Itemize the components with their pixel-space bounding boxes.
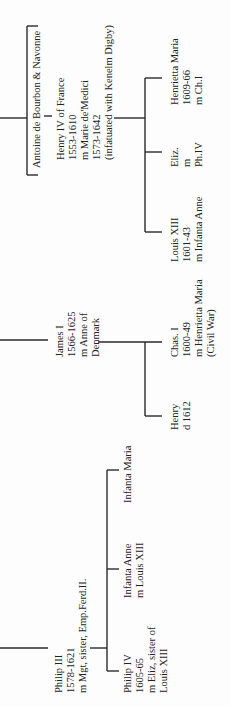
infanta-maria-name: Infanta Maria: [122, 446, 134, 503]
chas-i-dates: 1600-49: [181, 279, 193, 357]
node-infanta-maria: Infanta Maria: [122, 446, 134, 503]
henrietta-maria-spouse: m Ch.I: [193, 38, 205, 105]
node-henry-iv: Henry IV of France 1553-1610 m Marie de'…: [55, 25, 115, 160]
philip-iv-spouse: m Eliz, sister of: [146, 627, 158, 694]
henry-iv-spouse: m Marie de'Medici: [79, 25, 91, 160]
node-antoine-line-0: Antoine de Bourbon & Navonne: [31, 31, 43, 168]
henry-iv-note: (infatuated with Kenelm Digby): [103, 25, 115, 160]
node-louis-xiii: Louis XIII 1601-43 m Infanta Anne: [169, 197, 205, 262]
henry-iv-name: Henry IV of France: [55, 25, 67, 160]
james-i-spouse-cont: Denmark: [90, 312, 102, 358]
chas-i-spouse: m Henrietta Maria: [193, 279, 205, 357]
henrietta-maria-dates: 1609-66: [181, 38, 193, 105]
philip-iv-spouse-cont: Louis XIII: [158, 627, 170, 694]
node-philip-iv: Philip IV 1605-65 m Eliz, sister of Loui…: [122, 627, 170, 694]
louis-xiii-spouse: m Infanta Anne: [193, 197, 205, 262]
philip-iii-spouse: m Mgt, sister, Emp.Ferd.II.: [77, 579, 89, 694]
james-i-spouse: m Anne of: [78, 312, 90, 358]
philip-iv-name: Philip IV: [122, 627, 134, 694]
infanta-anne-name: Infanta Anne: [122, 543, 134, 598]
james-i-name: James I: [54, 312, 66, 358]
henry-death: d 1612: [181, 401, 193, 430]
node-eliz: Eliz. m Ph.IV: [169, 142, 205, 167]
node-henry: Henry d 1612: [169, 401, 193, 430]
louis-xiii-name: Louis XIII: [169, 197, 181, 262]
henry-iv-dates: 1553-1610: [67, 25, 79, 160]
infanta-anne-spouse: m Louis XIII: [134, 543, 146, 598]
henrietta-maria-name: Henrietta Maria: [169, 38, 181, 105]
philip-iii-name: Philip III: [53, 579, 65, 694]
node-henrietta-maria: Henrietta Maria 1609-66 m Ch.I: [169, 38, 205, 105]
eliz-spouse: Ph.IV: [193, 142, 205, 167]
philip-iii-dates: 1578-1621: [65, 579, 77, 694]
node-philip-iii: Philip III 1578-1621 m Mgt, sister, Emp.…: [53, 579, 89, 694]
node-antoine: Antoine de Bourbon & Navonne: [31, 31, 43, 168]
node-infanta-anne: Infanta Anne m Louis XIII: [122, 543, 146, 598]
node-chas-i: Chas. I 1600-49 m Henrietta Maria (Civil…: [169, 279, 217, 357]
henry-name: Henry: [169, 401, 181, 430]
chas-i-note: (Civil War): [205, 279, 217, 357]
henry-iv-spouse-dates: 1573-1642: [91, 25, 103, 160]
genealogy-chart-page: Antoine de Bourbon & Navonne Henry IV of…: [0, 0, 231, 707]
louis-xiii-dates: 1601-43: [181, 197, 193, 262]
chas-i-name: Chas. I: [169, 279, 181, 357]
eliz-name: Eliz.: [169, 142, 181, 167]
eliz-married: m: [181, 142, 193, 167]
james-i-dates: 1566-1625: [66, 312, 78, 358]
philip-iv-dates: 1605-65: [134, 627, 146, 694]
node-james-i: James I 1566-1625 m Anne of Denmark: [54, 312, 102, 358]
